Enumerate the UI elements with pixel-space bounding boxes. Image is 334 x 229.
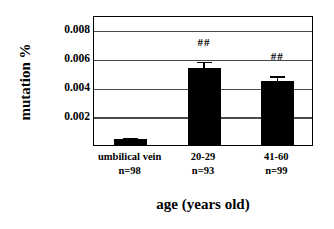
x-category-label: 41-60 n=99 bbox=[240, 150, 313, 177]
y-axis-title: mutation % bbox=[14, 18, 36, 146]
significance-annotation: ## bbox=[266, 50, 288, 62]
chart-figure: mutation % 0.008 0.006 0.004 0.002 ## ##… bbox=[0, 0, 334, 229]
y-tick-label: 0.006 bbox=[38, 52, 90, 64]
bar-41-60 bbox=[261, 81, 294, 145]
plot-area: ## ## bbox=[93, 16, 313, 146]
x-axis-title: age (years old) bbox=[93, 196, 313, 213]
x-category-count: n=93 bbox=[166, 164, 239, 178]
bar-20-29 bbox=[188, 68, 221, 145]
error-bar-cap bbox=[270, 76, 285, 78]
gridline bbox=[94, 31, 312, 32]
y-tick-label: 0.008 bbox=[38, 23, 90, 35]
error-bar-cap bbox=[197, 62, 212, 64]
x-category-label: 20-29 n=93 bbox=[166, 150, 239, 177]
y-axis-tick-labels: 0.008 0.006 0.004 0.002 bbox=[36, 0, 90, 229]
x-category-count: n=98 bbox=[93, 164, 166, 178]
x-category-label: umbilical vein n=98 bbox=[93, 150, 166, 177]
x-axis-category-labels: umbilical vein n=98 20-29 n=93 41-60 n=9… bbox=[93, 150, 313, 190]
y-tick-label: 0.004 bbox=[38, 81, 90, 93]
x-category-name: umbilical vein bbox=[93, 150, 166, 164]
error-bar-cap bbox=[123, 138, 138, 140]
x-category-name: 20-29 bbox=[166, 150, 239, 164]
y-axis-title-text: mutation % bbox=[17, 43, 34, 120]
x-category-name: 41-60 bbox=[240, 150, 313, 164]
x-category-count: n=99 bbox=[240, 164, 313, 178]
significance-annotation: ## bbox=[193, 36, 215, 48]
y-tick-label: 0.002 bbox=[38, 110, 90, 122]
